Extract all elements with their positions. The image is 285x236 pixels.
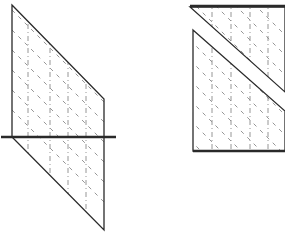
hatch-line [190, 60, 285, 236]
hatch-line [12, 0, 272, 170]
right-upper-hatching [190, 0, 285, 236]
hatch-line [190, 80, 285, 236]
hatch-line [190, 40, 285, 216]
diagram-canvas [0, 0, 285, 236]
hatch-line [12, 90, 272, 236]
hatch-line [12, 0, 272, 210]
hatch-line [190, 100, 285, 236]
hatch-line [190, 80, 285, 236]
hatch-line [190, 0, 285, 156]
hatch-line [12, 50, 272, 236]
hatch-line [190, 20, 285, 196]
hatch-line [12, 0, 272, 150]
diagram-svg [0, 0, 285, 236]
hatch-line [190, 20, 285, 196]
left-figure-parallelogram [12, 5, 104, 230]
left-figure-hatching [12, 0, 272, 236]
hatch-line [190, 120, 285, 236]
right-lower-hatching [190, 0, 285, 236]
hatch-line [12, 0, 272, 190]
hatch-line [190, 60, 285, 236]
hatch-line [12, 0, 272, 230]
right-figure-upper-piece [190, 7, 285, 92]
hatch-line [190, 0, 285, 176]
hatch-line [190, 40, 285, 216]
hatch-line [190, 0, 285, 176]
hatch-line [190, 100, 285, 236]
hatch-line [12, 0, 272, 236]
hatch-line [190, 120, 285, 236]
hatch-line [12, 30, 272, 236]
right-figure-lower-piece [193, 30, 285, 151]
hatch-line [190, 0, 285, 156]
hatch-line [190, 140, 285, 236]
hatch-line [12, 70, 272, 236]
hatch-line [190, 140, 285, 236]
